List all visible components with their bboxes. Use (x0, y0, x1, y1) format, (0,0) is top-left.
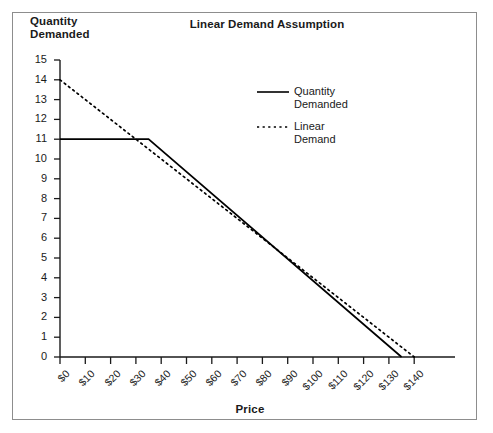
y-tick-label: 7 (21, 212, 47, 223)
y-tick-label: 4 (21, 272, 47, 283)
legend-label-linear-demand: Linear Demand (294, 120, 336, 145)
y-tick-label: 8 (21, 193, 47, 204)
data-series-group (60, 80, 414, 357)
y-tick-label: 5 (21, 252, 47, 263)
chart-canvas: Quantity Demanded Linear Demand Assumpti… (0, 0, 493, 433)
legend-line-samples (257, 92, 289, 127)
y-tick-label: 0 (21, 351, 47, 362)
y-tick-label: 14 (21, 74, 47, 85)
y-tick-label: 9 (21, 173, 47, 184)
y-tick-label: 15 (21, 54, 47, 65)
y-tick-label: 2 (21, 311, 47, 322)
chart-plot-svg (0, 0, 493, 433)
y-tick-marks (54, 60, 60, 357)
y-tick-label: 11 (21, 133, 47, 144)
y-tick-label: 13 (21, 94, 47, 105)
data-series-line-1 (60, 139, 402, 357)
data-series-line-2 (60, 80, 414, 357)
legend-label-quantity-demanded: Quantity Demanded (294, 85, 348, 110)
axes-group (60, 60, 455, 357)
x-tick-marks (60, 357, 414, 364)
y-tick-label: 10 (21, 153, 47, 164)
y-tick-label: 6 (21, 232, 47, 243)
y-tick-label: 3 (21, 292, 47, 303)
y-tick-label: 12 (21, 113, 47, 124)
y-tick-label: 1 (21, 331, 47, 342)
